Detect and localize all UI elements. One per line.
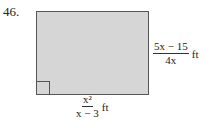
rectangle-figure — [36, 11, 149, 95]
height-unit: ft — [192, 48, 199, 60]
width-label: x² x − 3 ft — [76, 94, 108, 119]
height-numerator: 5x − 15 — [153, 41, 189, 54]
width-numerator: x² — [82, 94, 93, 107]
width-unit: ft — [102, 101, 109, 113]
right-angle-marker — [37, 81, 50, 94]
width-fraction: x² x − 3 — [76, 94, 99, 119]
height-label: 5x − 15 4x ft — [153, 41, 198, 66]
height-denominator: 4x — [165, 54, 176, 66]
height-fraction: 5x − 15 4x — [153, 41, 189, 66]
width-denominator: x − 3 — [76, 107, 99, 119]
problem-number: 46. — [3, 4, 19, 20]
